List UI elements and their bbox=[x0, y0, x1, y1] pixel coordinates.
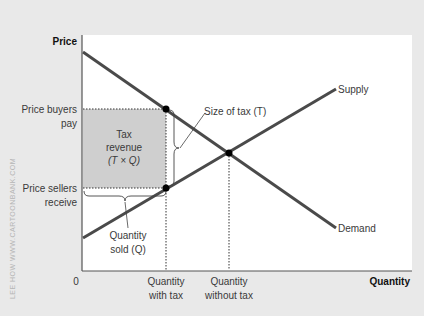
quantity-without-tax-line1: Quantity bbox=[210, 276, 247, 287]
tax-revenue-line2: revenue bbox=[106, 142, 143, 153]
quantity-without-tax-line2: without tax bbox=[204, 290, 253, 301]
size-of-tax-label: Size of tax (T) bbox=[204, 106, 266, 117]
origin-label: 0 bbox=[73, 276, 79, 287]
y-axis-label: Price bbox=[53, 36, 78, 47]
buyers-price-point bbox=[163, 106, 170, 113]
price-buyers-pay-line1: Price buyers bbox=[21, 104, 77, 115]
supply-label: Supply bbox=[338, 84, 369, 95]
equilibrium-point bbox=[226, 150, 233, 157]
quantity-sold-line1: Quantity bbox=[109, 230, 146, 241]
tax-revenue-line1: Tax bbox=[116, 129, 132, 140]
price-sellers-receive-line2: receive bbox=[45, 197, 78, 208]
tax-revenue-line3: (T × Q) bbox=[108, 155, 140, 166]
tax-revenue-diagram: Price Quantity 0 Price buyers pay Price … bbox=[0, 0, 424, 316]
x-axis-label: Quantity bbox=[369, 276, 410, 287]
demand-label: Demand bbox=[338, 223, 376, 234]
price-buyers-pay-line2: pay bbox=[61, 118, 77, 129]
quantity-with-tax-line1: Quantity bbox=[147, 276, 184, 287]
credit-text: LEE HOW WWW.CARTOONBANK.COM bbox=[9, 89, 16, 316]
price-sellers-receive-line1: Price sellers bbox=[23, 183, 77, 194]
quantity-with-tax-line2: with tax bbox=[148, 290, 183, 301]
quantity-sold-line2: sold (Q) bbox=[110, 244, 146, 255]
sellers-price-point bbox=[163, 185, 170, 192]
